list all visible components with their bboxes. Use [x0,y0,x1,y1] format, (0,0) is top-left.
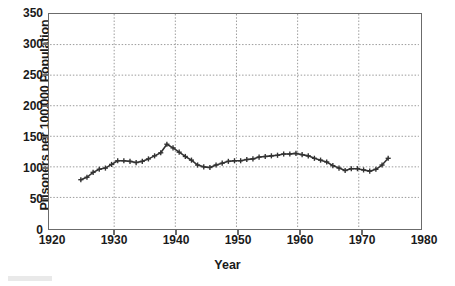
chart-figure: Prisoners per 100,000 Population 350 300… [0,0,455,286]
x-gridlines [114,14,359,228]
series-markers [78,142,390,183]
data-point-marker [287,151,292,156]
data-point-marker [318,158,323,163]
data-point-marker [275,153,280,158]
y-tick-label-150: 150 [3,131,43,143]
data-point-marker [97,167,102,172]
data-point-marker [281,151,286,156]
data-point-marker [121,158,126,163]
data-point-marker [146,156,151,161]
data-point-marker [257,155,262,160]
plot-area [48,13,422,230]
data-point-marker [343,168,348,173]
data-point-marker [140,159,145,164]
data-point-marker [232,158,237,163]
x-tick-label-1950: 1950 [215,234,261,246]
data-point-marker [244,157,249,162]
data-point-marker [367,169,372,174]
data-point-marker [207,165,212,170]
data-series-prisoner-rate [78,142,390,183]
data-point-marker [336,166,341,171]
y-tick-label-350: 350 [3,7,43,19]
data-point-marker [300,152,305,157]
x-tick-label-1970: 1970 [339,234,385,246]
y-tick-label-300: 300 [3,38,43,50]
data-point-marker [361,167,366,172]
x-tick-label-1930: 1930 [91,234,137,246]
y-tick-label-50: 50 [3,193,43,205]
data-point-marker [220,161,225,166]
x-tick-label-1960: 1960 [277,234,323,246]
data-point-marker [127,159,132,164]
x-tick-label-1980: 1980 [401,234,447,246]
data-point-marker [78,177,83,182]
data-point-marker [226,159,231,164]
data-point-marker [238,158,243,163]
y-tick-label-100: 100 [3,162,43,174]
x-tick-label-1940: 1940 [153,234,199,246]
data-point-marker [306,153,311,158]
x-axis-title: Year [0,258,455,272]
chart-canvas [49,14,420,228]
y-tick-label-200: 200 [3,100,43,112]
data-point-marker [263,154,268,159]
scan-artifact [8,276,52,281]
data-point-marker [312,156,317,161]
y-gridlines [50,45,419,198]
data-point-marker [269,153,274,158]
data-point-marker [201,164,206,169]
y-tick-label-250: 250 [3,69,43,81]
data-point-marker [250,156,255,161]
data-point-marker [152,153,157,158]
data-point-marker [134,160,139,165]
x-tick-label-1920: 1920 [29,234,75,246]
